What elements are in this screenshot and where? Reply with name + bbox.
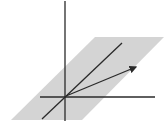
diagram-canvas bbox=[0, 0, 168, 134]
shaded-plane bbox=[11, 37, 164, 120]
